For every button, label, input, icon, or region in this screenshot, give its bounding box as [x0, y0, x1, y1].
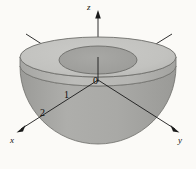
- solid-region-figure: [0, 0, 196, 169]
- x-axis-label: x: [10, 136, 14, 145]
- figure-container: z x y 0 1 2: [0, 0, 196, 169]
- z-axis-arrow-icon: [95, 10, 101, 19]
- y-axis-arrow-icon: [171, 125, 180, 133]
- x-axis-arrow-icon: [17, 125, 26, 133]
- origin-label: 0: [93, 76, 98, 86]
- z-axis-label: z: [87, 3, 91, 12]
- inner-radius-label: 1: [64, 90, 69, 100]
- outer-radius-label: 2: [40, 108, 45, 118]
- y-axis-label: y: [178, 136, 182, 145]
